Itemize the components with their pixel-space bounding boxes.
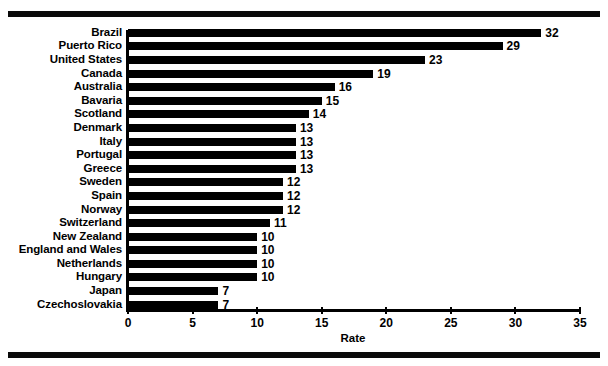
bar <box>128 233 257 241</box>
tick-mark <box>192 307 194 314</box>
bar <box>128 83 335 91</box>
bar <box>128 165 296 173</box>
bar <box>128 260 257 268</box>
tick-mark <box>321 307 323 314</box>
bar-row: Netherlands10 <box>0 257 608 271</box>
bar-value-label: 12 <box>287 176 300 188</box>
tick-label: 0 <box>125 317 132 329</box>
bar-value-label: 10 <box>261 231 274 243</box>
bar <box>128 56 425 64</box>
tick-mark <box>256 307 258 314</box>
bar-value-label: 10 <box>261 244 274 256</box>
category-label: Hungary <box>76 272 122 284</box>
category-label: New Zealand <box>53 231 122 243</box>
bar-value-label: 13 <box>300 136 313 148</box>
category-label: Scotland <box>74 109 122 121</box>
bottom-rule <box>8 352 600 358</box>
bar <box>128 97 322 105</box>
bar-row: Denmark13 <box>0 121 608 135</box>
bar-value-label: 10 <box>261 271 274 283</box>
category-label: Sweden <box>79 177 122 189</box>
bar-row: Norway12 <box>0 203 608 217</box>
bar <box>128 206 283 214</box>
bar-value-label: 7 <box>222 299 229 311</box>
bar <box>128 192 283 200</box>
bar-value-label: 14 <box>313 108 326 120</box>
bar-value-label: 10 <box>261 258 274 270</box>
bar <box>128 124 296 132</box>
bar <box>128 246 257 254</box>
category-label: Norway <box>81 204 122 216</box>
bar-row: Canada19 <box>0 67 608 81</box>
category-label: Netherlands <box>57 258 122 270</box>
category-label: Canada <box>81 68 122 80</box>
tick-mark <box>127 307 129 314</box>
bar-row: New Zealand10 <box>0 230 608 244</box>
bar-row: Bavaria15 <box>0 94 608 108</box>
bar <box>128 219 270 227</box>
bar <box>128 29 541 37</box>
category-label: Switzerland <box>59 217 122 229</box>
bar-value-label: 19 <box>377 68 390 80</box>
tick-mark <box>385 307 387 314</box>
x-axis-title: Rate <box>341 333 366 345</box>
bar-value-label: 13 <box>300 163 313 175</box>
bar-row: Brazil32 <box>0 26 608 40</box>
bar-row: Czechoslovakia7 <box>0 298 608 312</box>
bar-value-label: 15 <box>326 95 339 107</box>
bar-value-label: 32 <box>545 27 558 39</box>
category-label: Portugal <box>76 149 122 161</box>
category-label: Brazil <box>91 27 122 39</box>
category-label: England and Wales <box>19 245 122 257</box>
bar-value-label: 29 <box>507 40 520 52</box>
category-label: Spain <box>91 190 122 202</box>
tick-label: 30 <box>509 317 522 329</box>
tick-label: 35 <box>573 317 586 329</box>
bar <box>128 151 296 159</box>
bar-row: Switzerland11 <box>0 216 608 230</box>
x-axis-ticks: Rate 05101520253035 <box>0 316 608 350</box>
bar-value-label: 11 <box>274 217 287 229</box>
bar <box>128 110 309 118</box>
category-label: Italy <box>99 136 122 148</box>
category-label: Puerto Rico <box>59 41 122 53</box>
bar-value-label: 12 <box>287 204 300 216</box>
category-label: Australia <box>74 81 122 93</box>
bar-row: England and Wales10 <box>0 244 608 258</box>
bar <box>128 42 503 50</box>
category-label: Czechoslovakia <box>37 299 122 311</box>
bar-value-label: 7 <box>222 285 229 297</box>
tick-label: 15 <box>315 317 328 329</box>
category-label: Greece <box>84 163 122 175</box>
bar <box>128 287 218 295</box>
tick-label: 25 <box>444 317 457 329</box>
bar-row: Spain12 <box>0 189 608 203</box>
bar <box>128 178 283 186</box>
bar-value-label: 13 <box>300 122 313 134</box>
tick-label: 5 <box>189 317 196 329</box>
bar-row: Scotland14 <box>0 108 608 122</box>
bar-row: Australia16 <box>0 80 608 94</box>
category-label: Denmark <box>73 122 122 134</box>
bar-row: Italy13 <box>0 135 608 149</box>
tick-label: 20 <box>380 317 393 329</box>
plot-area: Brazil32Puerto Rico29United States23Cana… <box>0 26 608 316</box>
tick-mark <box>579 307 581 314</box>
bar-row: Puerto Rico29 <box>0 40 608 54</box>
bar-value-label: 13 <box>300 149 313 161</box>
bar-row: Sweden12 <box>0 176 608 190</box>
bar <box>128 301 218 309</box>
bar-rows: Brazil32Puerto Rico29United States23Cana… <box>0 26 608 311</box>
category-label: Japan <box>89 285 122 297</box>
tick-mark <box>514 307 516 314</box>
top-rule <box>8 11 600 17</box>
tick-mark <box>450 307 452 314</box>
bar-row: Hungary10 <box>0 271 608 285</box>
bar-row: Greece13 <box>0 162 608 176</box>
bar <box>128 138 296 146</box>
bar-row: United States23 <box>0 53 608 67</box>
bar-row: Japan7 <box>0 284 608 298</box>
bar-value-label: 16 <box>339 81 352 93</box>
bar <box>128 273 257 281</box>
bar-value-label: 23 <box>429 54 442 66</box>
